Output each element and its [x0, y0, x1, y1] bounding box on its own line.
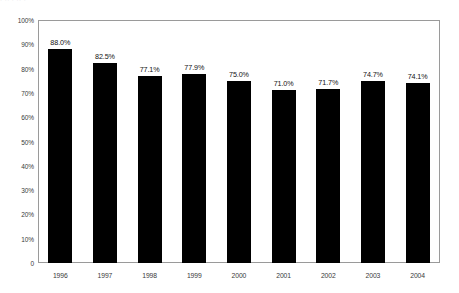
x-tick-label: 2001	[261, 272, 306, 279]
y-tick-label: 10%	[21, 235, 34, 242]
bar[interactable]	[93, 63, 117, 263]
bar-value-label: 71.0%	[274, 79, 294, 88]
bar-slot: 77.9%	[172, 20, 217, 263]
bar-value-label: 77.9%	[184, 63, 204, 72]
bar[interactable]	[182, 74, 206, 263]
y-tick-label: 60%	[21, 114, 34, 121]
x-tick-label: 2002	[306, 272, 351, 279]
y-tick-label: 20%	[21, 211, 34, 218]
bar-slot: 75.0%	[217, 20, 262, 263]
bar[interactable]	[272, 90, 296, 263]
y-tick-label: 50%	[21, 138, 34, 145]
y-tick-label: 40%	[21, 162, 34, 169]
bar[interactable]	[227, 81, 251, 263]
bar-value-label: 88.0%	[50, 38, 70, 47]
bar-chart: · ·· · ·· · 100%90%80%70%60%50%40%30%20%…	[0, 0, 459, 293]
bar-value-label: 75.0%	[229, 70, 249, 79]
y-tick-label: 70%	[21, 89, 34, 96]
y-tick-label: 0	[30, 260, 34, 267]
bar-slot: 88.0%	[38, 20, 83, 263]
bar-slot: 74.7%	[351, 20, 396, 263]
x-tick-label: 2004	[395, 272, 440, 279]
x-axis: 199619971998199920002001200220032004	[38, 266, 440, 288]
bar[interactable]	[138, 76, 162, 263]
bar-slot: 82.5%	[83, 20, 128, 263]
y-tick-label: 30%	[21, 187, 34, 194]
bar-value-label: 71.7%	[318, 78, 338, 87]
y-tick-label: 100%	[18, 17, 34, 24]
bars-layer: 88.0%82.5%77.1%77.9%75.0%71.0%71.7%74.7%…	[38, 20, 440, 263]
bar-value-label: 77.1%	[140, 65, 160, 74]
bar-slot: 71.7%	[306, 20, 351, 263]
bar[interactable]	[48, 49, 72, 263]
x-tick-label: 2000	[217, 272, 262, 279]
bar-value-label: 82.5%	[95, 52, 115, 61]
bar[interactable]	[406, 83, 430, 263]
x-tick-label: 1996	[38, 272, 83, 279]
x-tick-label: 2003	[351, 272, 396, 279]
bar-value-label: 74.7%	[363, 70, 383, 79]
x-tick-label: 1998	[127, 272, 172, 279]
x-tick-label: 1999	[172, 272, 217, 279]
bar-slot: 71.0%	[261, 20, 306, 263]
y-axis: 100%90%80%70%60%50%40%30%20%10%0	[0, 0, 38, 293]
y-tick-label: 80%	[21, 65, 34, 72]
bar-slot: 74.1%	[395, 20, 440, 263]
bar-value-label: 74.1%	[408, 72, 428, 81]
scan-artifact-text: · ·· · ·· ·	[0, 0, 459, 12]
bar-slot: 77.1%	[127, 20, 172, 263]
bar[interactable]	[361, 81, 385, 263]
bar[interactable]	[316, 89, 340, 263]
x-tick-label: 1997	[83, 272, 128, 279]
y-tick-label: 90%	[21, 41, 34, 48]
